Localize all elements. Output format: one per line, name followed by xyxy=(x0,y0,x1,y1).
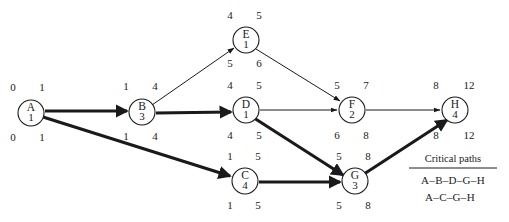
edge-b-to-d xyxy=(156,112,231,113)
node-c-late-start: 1 xyxy=(227,199,233,211)
node-h-duration: 4 xyxy=(452,108,458,120)
node-e-duration: 1 xyxy=(243,38,249,50)
node-b-late-finish: 4 xyxy=(152,130,158,142)
node-f-early-finish: 7 xyxy=(363,79,369,91)
edge-d-to-g xyxy=(254,118,343,175)
node-b-duration: 3 xyxy=(139,110,145,122)
node-d-late-start: 4 xyxy=(227,129,233,141)
node-b-late-start: 1 xyxy=(123,130,129,142)
node-a-late-finish: 1 xyxy=(39,131,45,143)
node-a-duration: 1 xyxy=(28,111,34,123)
node-c-duration: 4 xyxy=(242,179,248,191)
node-g-duration: 3 xyxy=(352,179,358,191)
legend-title: Critical paths xyxy=(425,153,481,164)
node-g-late-start: 5 xyxy=(336,199,342,211)
node-f-duration: 2 xyxy=(349,108,355,120)
node-g[interactable]: G35858 xyxy=(336,150,371,211)
node-h-early-start: 8 xyxy=(433,79,439,91)
node-f[interactable]: F25768 xyxy=(334,79,369,141)
node-e[interactable]: E14556 xyxy=(227,9,262,69)
node-e-late-start: 5 xyxy=(227,57,233,69)
critical-path-item-2: A–C–G–H xyxy=(425,191,475,203)
node-f-early-start: 5 xyxy=(334,79,340,91)
node-d-late-finish: 5 xyxy=(256,129,262,141)
critical-paths-legend: Critical paths A–B–D–G–HA–C–G–H xyxy=(409,153,497,203)
edge-b-to-e xyxy=(152,48,234,105)
node-a-early-finish: 1 xyxy=(39,81,45,93)
node-c-early-start: 1 xyxy=(227,150,233,162)
node-e-early-finish: 5 xyxy=(256,9,262,21)
node-f-late-start: 6 xyxy=(334,129,340,141)
edge-a-to-c xyxy=(43,117,230,176)
node-h-late-finish: 12 xyxy=(464,129,475,141)
node-d-early-start: 4 xyxy=(227,79,233,91)
cpm-network-diagram-page: A10101B31414C41515D14545E14556F25768G358… xyxy=(0,0,509,222)
node-d-duration: 1 xyxy=(243,108,249,120)
node-h-early-finish: 12 xyxy=(464,79,475,91)
network-diagram-canvas: A10101B31414C41515D14545E14556F25768G358… xyxy=(0,0,509,222)
node-b[interactable]: B31414 xyxy=(123,80,158,142)
node-a-late-start: 0 xyxy=(10,131,16,143)
node-g-early-finish: 8 xyxy=(365,150,371,162)
node-a[interactable]: A10101 xyxy=(10,81,45,143)
node-c-early-finish: 5 xyxy=(255,150,261,162)
node-d-early-finish: 5 xyxy=(256,79,262,91)
edge-e-to-f xyxy=(256,49,340,101)
node-h-late-start: 8 xyxy=(433,129,439,141)
node-a-early-start: 0 xyxy=(10,81,16,93)
node-c[interactable]: C41515 xyxy=(227,150,261,211)
node-f-late-finish: 8 xyxy=(363,129,369,141)
node-e-late-finish: 6 xyxy=(256,57,262,69)
node-g-late-finish: 8 xyxy=(365,199,371,211)
node-e-early-start: 4 xyxy=(227,9,233,21)
critical-path-item-1: A–B–D–G–H xyxy=(421,174,485,186)
node-d[interactable]: D14545 xyxy=(227,79,262,141)
node-c-late-finish: 5 xyxy=(255,199,261,211)
node-g-early-start: 5 xyxy=(336,150,342,162)
node-b-early-finish: 4 xyxy=(152,80,158,92)
node-b-early-start: 1 xyxy=(123,80,129,92)
